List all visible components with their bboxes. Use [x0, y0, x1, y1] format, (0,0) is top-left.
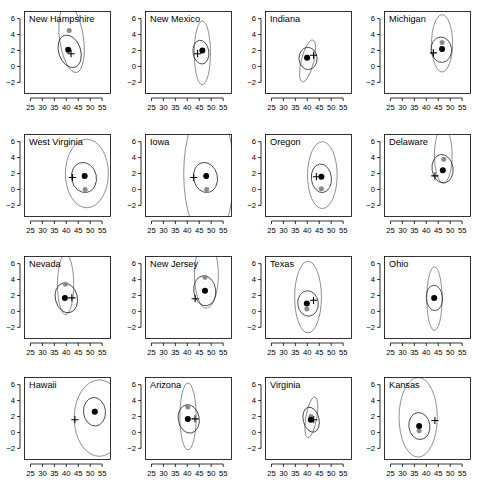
- data-point-black: [439, 46, 445, 52]
- x-axis-tick-label: 40: [62, 348, 70, 357]
- y-axis-tick-label: 2: [371, 291, 375, 300]
- y-axis-tick-label: 2: [251, 46, 255, 55]
- y-axis-tick-label: −2: [366, 323, 375, 332]
- y-axis-tick-label: −2: [247, 323, 256, 332]
- y-axis-tick-label: 4: [251, 275, 255, 284]
- data-point-black: [431, 295, 437, 301]
- y-axis-tick-label: 6: [131, 137, 135, 146]
- y-axis-tick-label: 2: [251, 291, 255, 300]
- y-axis-tick-label: 6: [131, 380, 135, 389]
- x-axis-tick-label: 30: [279, 348, 287, 357]
- y-axis-tick-label: 4: [251, 30, 255, 39]
- data-point-black: [184, 415, 190, 421]
- panel-title: Michigan: [389, 14, 426, 24]
- data-point-black: [62, 295, 68, 301]
- x-axis-tick-label: 30: [38, 103, 46, 112]
- data-point-black: [65, 47, 71, 53]
- x-axis-tick-label: 30: [279, 225, 287, 234]
- x-axis-tick-label: 50: [86, 103, 94, 112]
- data-point-grey: [441, 156, 446, 161]
- reference-cross-marker: [309, 297, 316, 304]
- x-axis-tick-label: 35: [410, 468, 418, 477]
- panel-title: New Hampshire: [29, 14, 94, 24]
- y-axis-tick-label: 4: [371, 275, 375, 284]
- y-axis-tick-label: 4: [131, 275, 135, 284]
- x-axis-tick-label: 55: [338, 103, 346, 112]
- x-axis-tick-label: 50: [326, 348, 334, 357]
- x-axis-tick-label: 30: [398, 468, 406, 477]
- x-axis-tick-label: 45: [434, 468, 442, 477]
- x-axis-tick-label: 45: [195, 225, 203, 234]
- x-axis-tick-label: 25: [267, 103, 275, 112]
- reference-cross-marker: [190, 173, 197, 180]
- outer-confidence-ellipse: [434, 127, 452, 183]
- y-axis-tick-label: 4: [251, 153, 255, 162]
- data-point-black: [304, 55, 310, 61]
- y-axis-tick-label: 4: [131, 396, 135, 405]
- panel-west-virginia: 253035404550556420−2West Virginia: [0, 123, 121, 246]
- panel-arizona: 253035404550556420−2Arizona: [121, 366, 242, 489]
- x-axis-tick-label: 40: [303, 103, 311, 112]
- x-axis-tick-label: 25: [26, 225, 34, 234]
- x-axis-tick-label: 35: [291, 225, 299, 234]
- panel-ohio: 253035404550556420−2Ohio: [360, 245, 481, 368]
- x-axis-tick-label: 40: [422, 348, 430, 357]
- y-axis-tick-label: 2: [11, 291, 15, 300]
- x-axis-tick-label: 30: [159, 103, 167, 112]
- x-axis-tick-label: 35: [171, 348, 179, 357]
- panel-indiana: 253035404550556420−2Indiana: [241, 0, 362, 123]
- panel-title: Arizona: [150, 380, 182, 390]
- x-axis-tick-label: 50: [206, 103, 214, 112]
- x-axis-tick-label: 35: [291, 103, 299, 112]
- x-axis-tick-label: 35: [291, 468, 299, 477]
- y-axis-tick-label: 2: [11, 46, 15, 55]
- panel-title: Kansas: [389, 380, 420, 390]
- y-axis-tick-label: −2: [6, 323, 15, 332]
- x-axis-tick-label: 35: [410, 103, 418, 112]
- x-axis-tick-label: 55: [98, 468, 106, 477]
- x-axis-tick-label: 55: [458, 103, 466, 112]
- x-axis-tick-label: 50: [446, 225, 454, 234]
- x-axis-tick-label: 55: [98, 103, 106, 112]
- x-axis-tick-label: 50: [206, 468, 214, 477]
- panel-oregon: 253035404550556420−2Oregon: [241, 123, 362, 246]
- y-axis-tick-label: 6: [371, 259, 375, 268]
- x-axis-tick-label: 25: [386, 103, 394, 112]
- x-axis-tick-label: 35: [410, 225, 418, 234]
- data-point-grey: [202, 275, 207, 280]
- y-axis-tick-label: 4: [371, 153, 375, 162]
- y-axis-tick-label: 2: [11, 169, 15, 178]
- y-axis-tick-label: 2: [371, 46, 375, 55]
- panel-virginia: 253035404550556420−2Virginia: [241, 366, 362, 489]
- data-point-black: [82, 172, 88, 178]
- panel-title: Delaware: [389, 137, 428, 147]
- x-axis-tick-label: 45: [74, 468, 82, 477]
- y-axis-tick-label: −2: [247, 444, 256, 453]
- panel-iowa: 253035404550556420−2Iowa: [121, 123, 242, 246]
- x-axis-tick-label: 45: [315, 348, 323, 357]
- y-axis-tick-label: 4: [371, 396, 375, 405]
- x-axis-tick-label: 30: [279, 103, 287, 112]
- x-axis-tick-label: 30: [398, 103, 406, 112]
- data-point-black: [307, 416, 313, 422]
- panel-new-hampshire: 253035404550556420−2New Hampshire: [0, 0, 121, 123]
- y-axis-tick-label: 0: [131, 62, 135, 71]
- x-axis-tick-label: 45: [315, 103, 323, 112]
- outer-confidence-ellipse: [183, 123, 233, 241]
- x-axis-tick-label: 25: [267, 225, 275, 234]
- x-axis-tick-label: 30: [38, 348, 46, 357]
- x-axis-tick-label: 35: [50, 468, 58, 477]
- x-axis-tick-label: 45: [195, 103, 203, 112]
- x-axis-tick-label: 50: [446, 103, 454, 112]
- y-axis-tick-label: 6: [11, 14, 15, 23]
- x-axis-tick-label: 55: [218, 468, 226, 477]
- x-axis-tick-label: 30: [159, 468, 167, 477]
- x-axis-tick-label: 25: [26, 468, 34, 477]
- y-axis-tick-label: 6: [371, 14, 375, 23]
- x-axis-tick-label: 40: [62, 225, 70, 234]
- panel-title: Nevada: [29, 259, 62, 269]
- y-axis-tick-label: 4: [11, 275, 15, 284]
- y-axis-tick-label: 6: [11, 380, 15, 389]
- y-axis-tick-label: 0: [251, 185, 255, 194]
- x-axis-tick-label: 30: [398, 225, 406, 234]
